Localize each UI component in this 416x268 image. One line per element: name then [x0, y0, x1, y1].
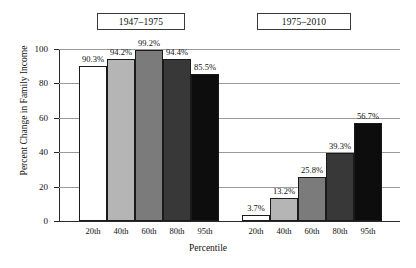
group-header-1947-1975: 1947–1975 [97, 13, 185, 30]
x-tick-label-g1-95th: 95th [187, 226, 223, 236]
bar-chart: 1947–1975 1975–2010 Percent Change in Fa… [0, 0, 416, 268]
y-axis-title: Percent Change in Family Income [19, 31, 30, 191]
gridline-0 [59, 221, 400, 222]
bar-g2-95th [354, 123, 382, 221]
y-tick-label-80: 80 [18, 79, 48, 88]
bar-label-g2-80th: 39.3% [320, 142, 360, 151]
x-tick-label-g2-95th: 95th [350, 226, 386, 236]
bar-label-g1-80th: 94.4% [157, 48, 197, 57]
bar-label-g1-95th: 85.5% [185, 63, 225, 72]
group-header-1975-2010: 1975–2010 [257, 13, 351, 30]
bar-label-g2-40th: 13.2% [264, 187, 304, 196]
bar-label-g1-40th: 94.2% [101, 48, 141, 57]
bar-g1-80th [163, 59, 191, 221]
y-tick-label-40: 40 [18, 148, 48, 157]
bar-g2-20th [242, 215, 270, 221]
bar-g1-95th [191, 74, 219, 221]
bar-g2-60th [298, 177, 326, 221]
bar-label-g2-60th: 25.8% [292, 166, 332, 175]
bar-g1-20th [79, 66, 107, 221]
x-axis-title: Percentile [0, 243, 416, 254]
bar-g1-60th [135, 50, 163, 221]
y-tick-label-60: 60 [18, 114, 48, 123]
y-tick-label-20: 20 [18, 183, 48, 192]
bar-label-g2-95th: 56.7% [348, 112, 388, 121]
bar-label-g2-20th: 3.7% [236, 204, 276, 213]
plot-area [59, 49, 400, 221]
bar-g2-80th [326, 153, 354, 221]
bar-g1-40th [107, 59, 135, 221]
y-tick-label-0: 0 [18, 217, 48, 226]
y-tick-label-100: 100 [18, 45, 48, 54]
